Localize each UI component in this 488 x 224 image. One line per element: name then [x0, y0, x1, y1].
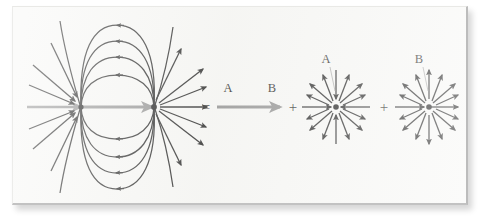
dipole-pole-b	[151, 104, 157, 110]
equals-sign: =	[202, 99, 210, 115]
radial-a-ray-ne	[340, 84, 362, 103]
uniform-arrow: A B	[217, 81, 280, 107]
radial-a-leader-line	[330, 67, 335, 91]
plus-sign-1: +	[289, 99, 297, 115]
radial-a-ray-ese	[343, 109, 365, 119]
radial-b-leader-line	[423, 67, 428, 91]
sink-ray-nnw	[51, 43, 77, 97]
radial-a-ray-wsw	[307, 109, 329, 119]
dipole-loops-upper	[81, 25, 155, 107]
field-loop-4-upper	[81, 25, 155, 107]
field-diagram: = A B +	[13, 7, 468, 205]
field-loop-3-lower	[81, 107, 154, 173]
plus-sign-2: +	[380, 99, 388, 115]
radial-field-b: B	[395, 52, 458, 144]
source-ray-se	[159, 111, 203, 145]
radial-b-ray-wsw	[400, 109, 422, 119]
field-loop-1-upper	[81, 75, 154, 107]
label-a-equation: A	[223, 81, 232, 95]
sink-curve-top	[60, 21, 80, 105]
radial-b-ray-ne	[433, 84, 455, 103]
figure-canvas: = A B +	[0, 0, 488, 224]
radial-b-ray-ene	[436, 95, 458, 105]
figure-panel: = A B +	[12, 6, 468, 205]
source-curve-top	[155, 27, 173, 105]
radial-a-center	[333, 104, 339, 110]
radial-b-ray-wnw	[400, 95, 422, 105]
field-loop-3-upper	[81, 41, 154, 107]
label-b-starburst: B	[415, 52, 423, 66]
source-ray-ne	[159, 69, 203, 103]
dipole-source-rays	[156, 49, 207, 165]
dipole-field	[27, 21, 207, 193]
radial-a-ray-se	[340, 111, 362, 130]
radial-b-ray-nw	[403, 84, 425, 103]
radial-a-ray-ene	[343, 95, 365, 105]
radial-a-ray-sw	[310, 111, 332, 130]
dipole-pole-a	[78, 104, 83, 109]
radial-b-ray-sw	[403, 111, 425, 130]
dipole-loop-arrowheads-lower	[116, 139, 124, 189]
label-a-starburst: A	[321, 52, 330, 66]
field-loop-1-lower	[81, 107, 154, 139]
radial-b-ray-se	[433, 111, 455, 130]
source-ray-ese	[160, 109, 206, 127]
radial-a-ray-wnw	[307, 95, 329, 105]
radial-field-a: A	[302, 52, 370, 144]
sink-curve-bottom	[60, 109, 80, 193]
sink-ray-ssw	[51, 117, 77, 171]
dipole-loop-arrowheads-upper	[116, 25, 124, 75]
dipole-loops-lower	[81, 107, 155, 189]
radial-a-ray-nw	[310, 84, 332, 103]
source-curve-bottom	[155, 109, 173, 187]
radial-b-ray-ese	[436, 109, 458, 119]
radial-b-center	[426, 104, 432, 110]
source-ray-ene	[160, 87, 206, 105]
label-b-equation: B	[268, 81, 276, 95]
field-loop-4-lower	[81, 107, 155, 189]
